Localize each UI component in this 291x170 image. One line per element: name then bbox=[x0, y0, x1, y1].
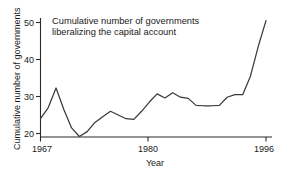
y-tick-label-40: 40 bbox=[24, 55, 34, 65]
y-tick-label-20: 20 bbox=[24, 129, 34, 139]
x-tick-marks bbox=[41, 137, 267, 142]
x-axis-title: Year bbox=[146, 158, 164, 168]
chart-container: Cumulative number of governments Cumulat… bbox=[0, 0, 291, 170]
x-tick-label-1980: 1980 bbox=[138, 144, 158, 154]
y-tick-label-30: 30 bbox=[24, 92, 34, 102]
x-tick-label-1967: 1967 bbox=[32, 144, 52, 154]
x-tick-label-1996: 1996 bbox=[254, 144, 274, 154]
y-tick-label-50: 50 bbox=[24, 18, 34, 28]
plot-area: 50 40 30 20 1967 1980 1996 Year bbox=[0, 0, 291, 170]
y-tick-marks bbox=[36, 23, 41, 134]
data-series-line bbox=[41, 21, 267, 137]
